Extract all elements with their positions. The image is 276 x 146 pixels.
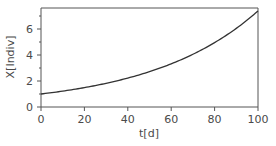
exponential-growth-chart: 020406080100 0246 t[d] X[Indiv]	[0, 0, 276, 146]
growth-curve	[41, 11, 258, 94]
x-tick-label: 40	[121, 113, 135, 126]
x-tick-label: 80	[208, 113, 222, 126]
y-tick-label: 6	[26, 23, 33, 36]
x-tick-label: 0	[38, 113, 45, 126]
x-ticks: 020406080100	[38, 107, 269, 126]
x-tick-label: 20	[77, 113, 91, 126]
plot-frame	[41, 8, 258, 107]
x-tick-label: 100	[248, 113, 269, 126]
x-axis-label: t[d]	[139, 127, 159, 140]
x-tick-label: 60	[164, 113, 178, 126]
y-axis-label: X[Indiv]	[4, 36, 17, 79]
y-tick-label: 4	[26, 49, 33, 62]
y-tick-label: 0	[26, 101, 33, 114]
y-tick-label: 2	[26, 75, 33, 88]
y-ticks: 0246	[26, 16, 41, 114]
